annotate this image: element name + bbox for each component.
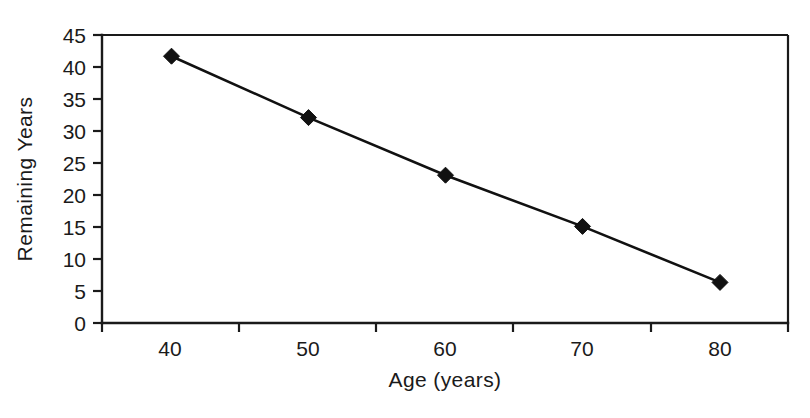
y-axis-ticks [93,35,102,323]
x-tick-label: 80 [708,337,731,360]
y-tick-label: 5 [74,280,86,303]
y-axis-title: Remaining Years [13,97,36,262]
x-tick-label: 40 [158,337,181,360]
x-axis-title: Age (years) [389,368,502,391]
x-tick-label: 60 [433,337,456,360]
x-axis-tick-labels: 40 50 60 70 80 [158,337,731,360]
y-tick-label: 45 [63,24,86,47]
y-tick-label: 10 [63,248,86,271]
line-chart: 0 5 10 15 20 25 30 35 40 45 40 50 60 70 … [0,0,810,418]
y-tick-label: 35 [63,88,86,111]
x-tick-label: 50 [296,337,319,360]
y-tick-label: 15 [63,216,86,239]
y-tick-label: 30 [63,120,86,143]
chart-container: 0 5 10 15 20 25 30 35 40 45 40 50 60 70 … [0,0,810,418]
x-tick-label: 70 [570,337,593,360]
y-tick-label: 40 [63,56,86,79]
y-axis-tick-labels: 0 5 10 15 20 25 30 35 40 45 [63,24,86,335]
x-axis-ticks [102,323,788,332]
y-tick-label: 0 [74,312,86,335]
y-tick-label: 20 [63,184,86,207]
y-tick-label: 25 [63,152,86,175]
